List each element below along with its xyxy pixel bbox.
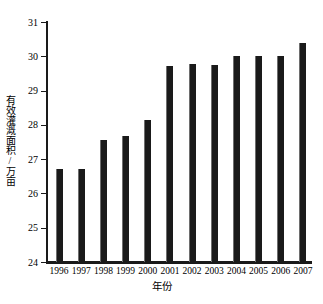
bar-highlight [189,64,190,262]
x-axis-tick-label: 2002 [183,265,202,277]
bar [56,169,63,262]
x-axis-title: 年份 [0,281,323,293]
y-axis-tick-label: 29 [28,86,38,96]
y-axis-tick: 30 [41,56,46,57]
x-axis-tick-labels: 1996199719981999200020012002200320042005… [48,265,314,279]
y-axis-tick-label: 28 [28,120,38,130]
bar [144,120,151,262]
x-axis-tick-label: 1997 [72,265,91,277]
bar [255,56,262,262]
y-axis-tick-label: 27 [28,155,38,165]
x-axis-tick-label: 1996 [50,265,69,277]
bar [233,56,240,262]
x-axis-tick-label: 1998 [94,265,113,277]
y-axis-tick: 25 [41,228,46,229]
bar-highlight [100,140,101,262]
y-axis-tick: 27 [41,159,46,160]
x-axis-tick-label: 2005 [249,265,268,277]
y-axis-tick-label: 30 [28,52,38,62]
plot-area [48,22,314,262]
y-axis-tick: 29 [41,91,46,92]
bar [166,66,173,262]
bar [299,43,306,262]
x-axis-tick-label: 2004 [227,265,246,277]
y-axis-title: 有效灌溉面积/万亩 [2,55,18,225]
bar-highlight [255,56,256,262]
x-axis-tick-label: 2000 [138,265,157,277]
bar-highlight [144,120,145,262]
bar [100,140,107,262]
bar-highlight [277,56,278,262]
bar-chart: 有效灌溉面积/万亩 2425262728293031 1996199719981… [0,0,323,304]
bar [189,64,196,262]
y-axis-tick: 31 [41,22,46,23]
bar-highlight [78,169,79,262]
bar [211,65,218,262]
y-axis-tick-label: 24 [28,258,38,268]
y-axis-tick: 26 [41,193,46,194]
y-axis-tick: 28 [41,125,46,126]
y-axis-tick: 24 [41,262,46,263]
x-axis-tick-label: 2006 [271,265,290,277]
bar-highlight [211,65,212,262]
bar-highlight [56,169,57,262]
y-axis-tick-label: 26 [28,189,38,199]
x-axis-tick-label: 2007 [293,265,312,277]
y-axis-tick-label: 31 [28,18,38,28]
x-axis-tick-label: 1999 [116,265,135,277]
y-axis-tick-label: 25 [28,223,38,233]
x-axis-tick-label: 2001 [160,265,179,277]
bar-highlight [233,56,234,262]
bar-highlight [166,66,167,262]
x-axis-tick-label: 2003 [205,265,224,277]
bar-highlight [122,136,123,262]
bar-highlight [299,43,300,262]
bar [78,169,85,262]
bar [277,56,284,262]
bar [122,136,129,262]
